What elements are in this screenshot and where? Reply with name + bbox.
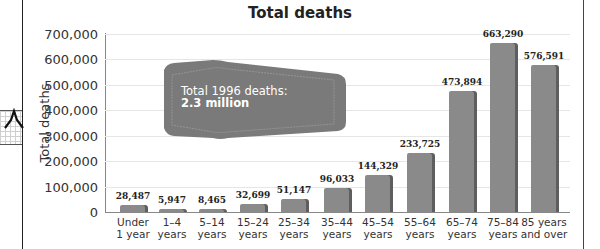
bar-value-label: 576,591 — [514, 51, 574, 61]
annotation-line-2: 2.3 million — [181, 96, 249, 110]
bar-value-label: 96,033 — [307, 174, 367, 184]
bar-value-label: 51,147 — [264, 185, 324, 195]
bar — [281, 199, 306, 212]
y-tick-label: 700,000 — [8, 27, 98, 42]
bar — [531, 65, 556, 212]
bar — [240, 204, 265, 212]
bar — [159, 209, 184, 212]
y-tick-label: 400,000 — [8, 103, 98, 118]
right-frame-line — [583, 0, 584, 249]
annotation-text: Total 1996 deaths: 2.3 million — [181, 85, 288, 109]
y-tick-label: 0 — [8, 205, 98, 220]
bar — [324, 188, 349, 212]
y-axis-label: Total deaths — [37, 84, 52, 163]
bar-value-label: 663,290 — [473, 29, 533, 39]
chart-title: Total deaths — [0, 4, 600, 22]
bar-value-label: 233,725 — [390, 139, 450, 149]
bar-value-label: 144,329 — [348, 161, 408, 171]
bar — [199, 209, 224, 212]
x-axis — [105, 212, 570, 213]
y-tick-label: 100,000 — [8, 179, 98, 194]
y-tick-label: 500,000 — [8, 77, 98, 92]
bar — [490, 43, 515, 212]
bar — [407, 153, 432, 212]
y-tick-label: 600,000 — [8, 52, 98, 67]
bar — [120, 205, 145, 212]
bar — [449, 91, 474, 212]
bar-value-label: 473,894 — [432, 77, 492, 87]
y-tick-label: 300,000 — [8, 128, 98, 143]
x-category-label: 85 yearsand over — [519, 216, 569, 240]
y-tick-label: 200,000 — [8, 154, 98, 169]
bar — [365, 175, 390, 212]
